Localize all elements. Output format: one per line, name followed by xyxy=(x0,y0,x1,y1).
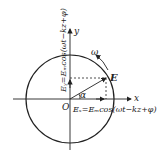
rotation-label: ω xyxy=(91,47,99,57)
rotation-arrow xyxy=(96,55,108,70)
ey-equation: Eᵧ=Eₘcos(ωt−kz+φ) xyxy=(59,8,68,93)
e-vector-label: E xyxy=(109,72,118,83)
angle-label: α xyxy=(80,90,86,100)
e-vector xyxy=(70,78,106,99)
polarization-diagram: y x O E α ω Eₓ=Eₘcos(ωt−kz+φ) Eᵧ=Eₘcos(ω… xyxy=(0,0,159,167)
y-axis-label: y xyxy=(73,26,80,36)
origin-label: O xyxy=(62,102,70,112)
ex-equation: Eₓ=Eₘcos(ωt−kz+φ) xyxy=(72,105,157,114)
x-axis-label: x xyxy=(134,93,139,103)
